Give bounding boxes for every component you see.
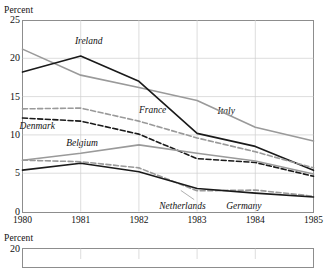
series-label-ireland: Ireland (75, 36, 103, 46)
chart1-xtick-1980: 1980 (3, 215, 43, 225)
chart1-ytick-10: 10 (0, 130, 20, 140)
series-label-denmark: Denmark (20, 121, 55, 131)
chart2-y-axis-title: Percent (4, 233, 33, 243)
chart1-ytick-20: 20 (0, 53, 20, 63)
chart1-ytick-25: 25 (0, 15, 20, 25)
chart1-xtick-1981: 1981 (61, 215, 101, 225)
chart1-ytick-5: 5 (0, 168, 20, 178)
chart1-xtick-1984: 1984 (235, 215, 275, 225)
chart2-ytick-top: 20 (0, 244, 20, 254)
series-label-germany: Germany (226, 201, 261, 211)
chart1-xtick-1982: 1982 (119, 215, 159, 225)
series-label-italy: Italy (217, 106, 234, 116)
chart2-plot-area (22, 248, 314, 268)
series-label-belgium: Belgium (66, 138, 98, 148)
chart1-xtick-1985: 1985 (294, 215, 328, 225)
series-label-france: France (139, 105, 166, 115)
chart1-plot-area (22, 20, 314, 213)
chart1-xtick-1983: 1983 (177, 215, 217, 225)
series-label-netherlands: Netherlands (159, 201, 205, 211)
chart1-ytick-15: 15 (0, 92, 20, 102)
